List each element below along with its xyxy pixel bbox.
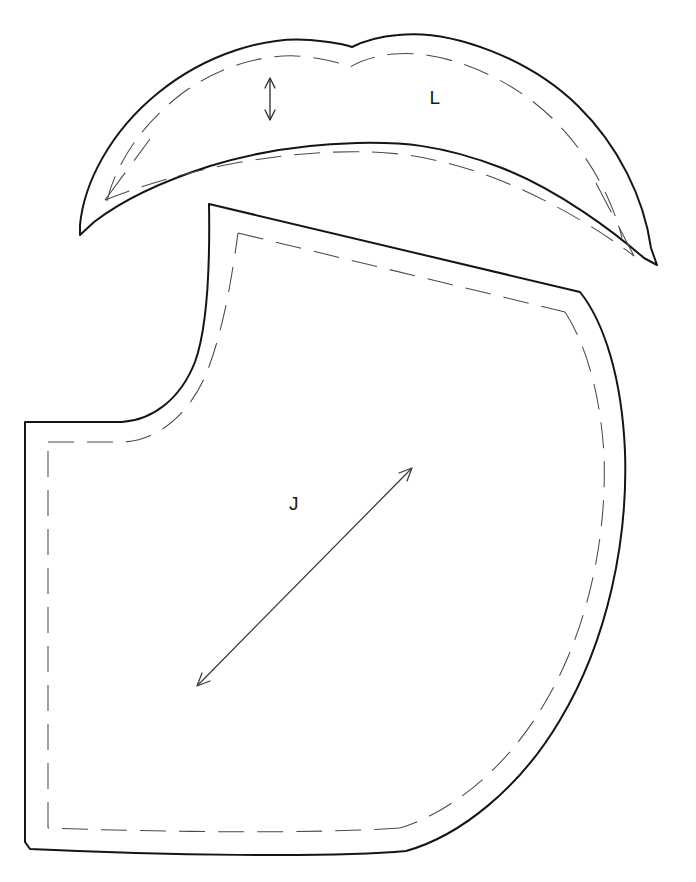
pattern-drawing-canvas: L J	[0, 0, 696, 882]
piece-J-label: J	[289, 493, 299, 514]
pattern-sheet: L J	[0, 0, 696, 882]
piece-L-label: L	[429, 87, 440, 108]
sheet-background	[0, 0, 696, 882]
